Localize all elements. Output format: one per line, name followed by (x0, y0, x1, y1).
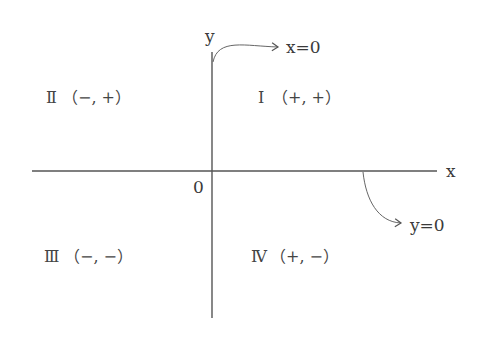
quadrant-signs: （+, −） (270, 247, 339, 266)
quadrant-i-label: Ⅰ （+, +） (258, 88, 341, 107)
quadrant-iv-label: Ⅳ （+, −） (251, 247, 339, 266)
x-axis-label: x (446, 161, 456, 181)
quadrant-iii-label: Ⅲ （−, −） (44, 247, 133, 266)
quadrant-ii-label: Ⅱ （−, +） (46, 88, 131, 107)
quadrant-signs: （−, −） (64, 247, 133, 266)
quadrant-signs: （+, +） (272, 88, 341, 107)
x-axis-equation: y=0 (409, 215, 445, 235)
y-axis-label: y (204, 26, 215, 46)
quadrant-numeral: Ⅰ (258, 88, 264, 107)
quadrant-numeral: Ⅲ (44, 247, 59, 266)
coordinate-plane: y x 0 x=0 y=0 Ⅱ （−, +） Ⅰ （+, +） Ⅲ （−, −）… (0, 0, 487, 340)
x-axis-annotation-arrow (363, 172, 401, 223)
quadrant-numeral: Ⅳ (251, 247, 268, 266)
quadrant-signs: （−, +） (62, 88, 131, 107)
y-axis-annotation-arrow (213, 45, 278, 62)
y-axis-equation: x=0 (286, 37, 321, 57)
quadrant-numeral: Ⅱ (46, 88, 57, 107)
origin-label: 0 (193, 177, 204, 197)
